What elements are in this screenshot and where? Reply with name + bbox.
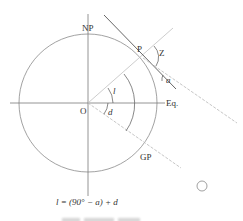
label-eq: Eq. (166, 98, 178, 108)
label-l: l (113, 86, 116, 96)
small-circle-icon (197, 181, 207, 191)
label-np: NP (82, 23, 94, 33)
label-z: Z (159, 48, 165, 58)
label-a: a (166, 75, 171, 85)
formula: l = (90° − a) + d (56, 197, 118, 207)
star-ray (143, 58, 237, 123)
gp-ray (88, 103, 181, 168)
celestial-diagram: NP P Z a O Eq. l d GP l = (90° − a) + d (0, 0, 243, 221)
label-o: O (80, 106, 87, 116)
label-gp: GP (140, 152, 152, 162)
figure-caption-blurred (62, 210, 152, 216)
total-arc (124, 74, 135, 131)
zenith-ray (88, 28, 173, 103)
altitude-arc (162, 75, 163, 81)
label-p: P (137, 44, 142, 54)
label-d: d (108, 107, 113, 117)
zenith-arc (154, 46, 159, 66)
